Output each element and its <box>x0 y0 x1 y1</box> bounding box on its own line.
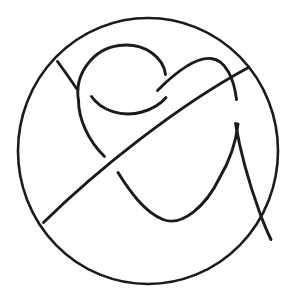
knot-figure-canvas <box>0 0 303 298</box>
long-diagonal <box>44 68 249 223</box>
knot-diagram-svg <box>0 0 303 298</box>
right-descending-strand <box>236 124 272 240</box>
right-arch <box>158 58 237 99</box>
left-descending-curve <box>79 101 105 157</box>
bottom-right-tail <box>220 124 239 178</box>
v-bottom-curve <box>118 173 220 222</box>
upper-left-stub <box>58 62 77 89</box>
enclosing-circle <box>18 18 278 284</box>
knot-strand-group <box>44 45 272 239</box>
top-loop-arc <box>78 45 166 100</box>
inner-lower-arc <box>92 97 167 114</box>
